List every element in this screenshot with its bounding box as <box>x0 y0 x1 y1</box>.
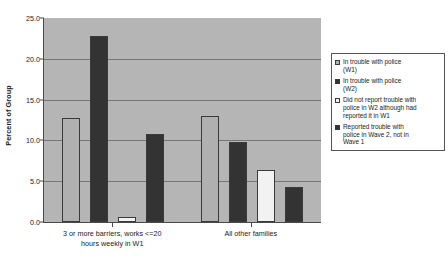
legend-item-label-line: Did not report trouble with <box>343 96 417 104</box>
legend-item-label-line: police in W2 although had <box>343 104 417 112</box>
legend-swatch-icon <box>335 98 340 103</box>
bar <box>62 118 80 222</box>
legend-item-label-line: (W2) <box>343 85 401 93</box>
y-axis-tick-label: 5.0 <box>30 177 40 186</box>
legend-item-label-line: police in Wave 2, not in <box>343 131 409 139</box>
y-axis-tick-label: 10.0 <box>26 136 40 145</box>
y-axis-tick-label: 20.0 <box>26 54 40 63</box>
legend-item: Did not report trouble withpolice in W2 … <box>335 96 441 119</box>
legend-swatch-icon <box>335 125 340 130</box>
bar <box>146 134 164 222</box>
legend-item-label-line: (W1) <box>343 66 401 74</box>
bar <box>118 217 136 222</box>
legend-swatch-icon <box>335 60 340 65</box>
bar <box>201 116 219 222</box>
bar-group-container <box>44 18 321 222</box>
y-axis-ticks: 25.020.015.010.05.00.0 <box>0 18 40 222</box>
legend-item-label-line: In trouble with police <box>343 77 401 85</box>
legend-item-label: In trouble with police(W2) <box>343 77 401 92</box>
y-axis-tick-label: 25.0 <box>26 14 40 23</box>
y-axis-tick-label: 0.0 <box>30 218 40 227</box>
legend-item-label: In trouble with police(W1) <box>343 58 401 73</box>
x-axis-category-label: All other families <box>166 229 336 239</box>
legend-swatch-icon <box>335 79 340 84</box>
legend-item-label-line: Reported trouble with <box>343 123 409 131</box>
plot-area <box>43 18 321 223</box>
chart-legend: In trouble with police(W1)In trouble wit… <box>331 53 445 151</box>
legend-item-label-line: Wave 1 <box>343 138 409 146</box>
bar <box>229 142 247 222</box>
bar <box>90 36 108 222</box>
x-axis-category-label-line: hours weekly in W1 <box>27 239 197 249</box>
bar <box>285 187 303 222</box>
x-axis-tick-mark <box>251 223 252 227</box>
bar-chart: Percent of Group 25.020.015.010.05.00.0 … <box>0 0 448 269</box>
legend-item-label-line: reported it in W1 <box>343 112 417 120</box>
legend-item: In trouble with police(W2) <box>335 77 441 92</box>
legend-item-label: Reported trouble withpolice in Wave 2, n… <box>343 123 409 146</box>
legend-item: In trouble with police(W1) <box>335 58 441 73</box>
x-axis-tick-mark <box>112 223 113 227</box>
legend-item-label: Did not report trouble withpolice in W2 … <box>343 96 417 119</box>
x-axis-category-label-line: All other families <box>166 229 336 239</box>
legend-item: Reported trouble withpolice in Wave 2, n… <box>335 123 441 146</box>
bar <box>257 170 275 222</box>
y-axis-tick-label: 15.0 <box>26 95 40 104</box>
legend-item-label-line: In trouble with police <box>343 58 401 66</box>
